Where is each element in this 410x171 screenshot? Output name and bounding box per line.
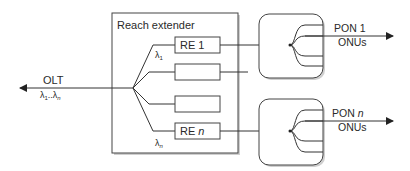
olt-wavelengths-label: λ1..λn xyxy=(40,90,61,101)
reach-extender-title: Reach extender xyxy=(117,19,195,31)
re-unit-n-label: RE n xyxy=(180,125,204,137)
pon-1-splitter xyxy=(259,14,325,80)
pon-1-onus-label: ONUs xyxy=(338,36,367,48)
pon-n-splitter xyxy=(259,99,325,167)
pon-reach-extender-diagram: Reach extender OLT λ1..λn λ1 λn RE 1 RE … xyxy=(0,0,410,171)
re-unit-2 xyxy=(175,64,220,80)
pon-1-label: PON 1 xyxy=(334,22,366,34)
pon-n-onus-label: ONUs xyxy=(338,121,367,133)
olt-label: OLT xyxy=(43,74,64,86)
re-unit-3 xyxy=(175,96,220,112)
re-unit-1-label: RE 1 xyxy=(180,39,204,51)
pon-n-label: PON n xyxy=(332,107,364,119)
